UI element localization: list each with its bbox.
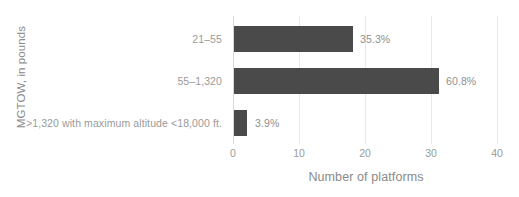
bar [234,68,439,94]
x-axis-tick-labels: 0 10 20 30 40 [233,147,499,163]
bar [234,110,247,136]
gridline-40 [497,16,498,144]
x-tick-label: 10 [293,147,305,159]
x-tick-label: 20 [359,147,371,159]
category-label-column: 21–55 55–1,320 >1,320 with maximum altit… [24,16,228,144]
category-label: >1,320 with maximum altitude <18,000 ft. [26,104,222,142]
bar-chart: MGTOW, in pounds 21–55 55–1,320 >1,320 w… [0,0,519,197]
category-label: 55–1,320 [177,62,222,100]
bar-value-label: 3.9% [255,110,279,136]
plot-area: 35.3% 60.8% 3.9% [233,16,499,144]
bar-value-label: 60.8% [446,68,476,94]
x-tick-label: 40 [491,147,503,159]
bar-value-label: 35.3% [360,26,390,52]
x-axis-title: Number of platforms [233,170,499,184]
category-label: 21–55 [192,20,222,58]
bar [234,26,353,52]
x-tick-label: 0 [230,147,236,159]
x-tick-label: 30 [425,147,437,159]
